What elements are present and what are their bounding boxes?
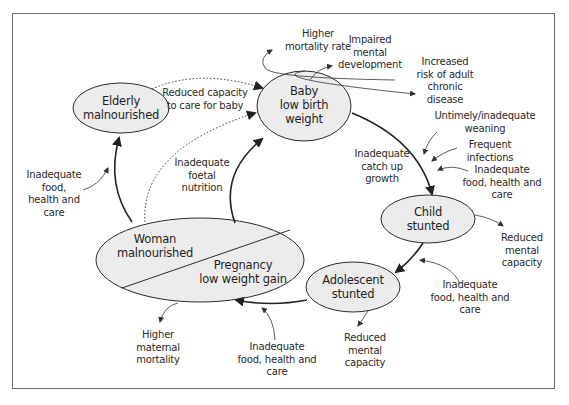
arrow-from-inadequate-elderly	[83, 168, 108, 190]
arrow-adolescent-to-pregnancy	[236, 300, 307, 304]
arrow-woman-to-elderly	[115, 138, 132, 222]
label-untimely-weaning: Untimely/inadequate weaning	[430, 110, 540, 135]
arrow-from-weaning	[424, 132, 437, 154]
node-child-text: Child stunted	[393, 205, 463, 233]
arrow-to-child-mental	[475, 215, 503, 226]
arrow-to-adolescent-mental	[358, 311, 368, 326]
label-reduced-capacity: Reduced capacity to care for baby	[160, 87, 250, 112]
node-pregnancy-text: Pregnancy low weight gain	[193, 258, 293, 286]
label-inadequate-woman: Inadequate food, health and care	[232, 341, 322, 379]
arrow-from-infections	[432, 148, 457, 161]
node-woman-text: Woman malnourished	[110, 232, 200, 260]
node-adolescent-text: Adolescent stunted	[313, 273, 393, 301]
label-inadequate-elderly: Inadequate food, health and care	[24, 169, 84, 219]
label-inadequate-adolescent: Inadequate food, health and care	[425, 279, 515, 317]
arrow-to-maternal-mortality	[160, 303, 178, 322]
arrow-from-inadequate-woman	[262, 308, 275, 340]
arrow-woman-to-baby	[230, 139, 262, 223]
label-increased-risk: Increased risk of adult chronic disease	[410, 56, 480, 106]
label-impaired-mental: Impaired mental development	[335, 34, 405, 72]
label-child-reduced-mental: Reduced mental capacity	[497, 232, 547, 270]
label-adolescent-reduced-mental: Reduced mental capacity	[340, 332, 390, 370]
arrow-child-to-adolescent	[396, 243, 423, 272]
node-elderly-text: Elderly malnourished	[79, 94, 163, 122]
node-baby-text: Baby low birth weight	[264, 84, 344, 126]
label-maternal-mortality: Higher maternal mortality	[133, 329, 183, 367]
label-foetal-nutrition: Inadequate foetal nutrition	[170, 157, 234, 195]
label-catch-up-growth: Inadequate catch up growth	[352, 148, 412, 186]
label-inadequate-child: Inadequate food, health and care	[457, 164, 547, 202]
label-frequent-infections: Frequent infections	[455, 139, 525, 164]
